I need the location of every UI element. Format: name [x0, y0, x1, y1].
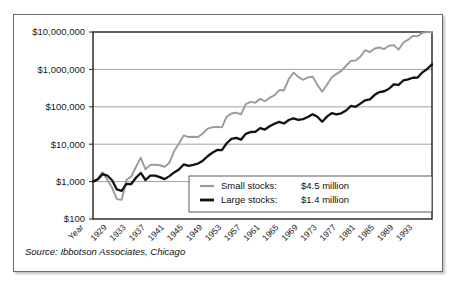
y-axis-tick-label: $100,000	[45, 101, 85, 112]
x-axis-tick-label: 1989	[375, 222, 396, 243]
y-axis-tick-label: $1,000,000	[37, 64, 85, 75]
source-note: Source: Ibbotson Associates, Chicago	[25, 246, 185, 257]
y-axis-tick-label: $10,000,000	[32, 26, 85, 37]
chart-figure-frame: $10,000,000$1,000,000$100,000$10,000$1,0…	[13, 14, 443, 272]
x-axis-tick-label: 1941	[146, 222, 167, 243]
x-axis-tick-label: 1985	[356, 222, 377, 243]
y-axis-labels: $10,000,000$1,000,000$100,000$10,000$1,0…	[32, 26, 85, 224]
x-axis-tick-label: 1949	[184, 222, 205, 243]
legend-value-small-stocks: $4.5 million	[301, 180, 349, 191]
x-axis-tick-label: 1965	[260, 222, 281, 243]
x-axis-tick-label: 1961	[241, 222, 262, 243]
x-axis-tick-label: 1977	[317, 222, 338, 243]
x-axis-tick-label: 1933	[107, 222, 128, 243]
x-axis-tick-label: 1929	[88, 222, 109, 243]
legend-label-small-stocks: Small stocks:	[221, 180, 277, 191]
x-axis-labels: Year192919331937194119451949195319571961…	[66, 222, 414, 243]
x-axis-tick-label: 1981	[337, 222, 358, 243]
legend-value-large-stocks: $1.4 million	[301, 194, 349, 205]
legend-label-large-stocks: Large stocks:	[221, 194, 278, 205]
x-axis-tick-label: 1969	[279, 222, 300, 243]
x-axis-tick-label: 1945	[165, 222, 186, 243]
x-axis-tick-label: 1953	[203, 222, 224, 243]
x-axis-tick-label: 1937	[126, 222, 147, 243]
chart-plot-wrapper: $10,000,000$1,000,000$100,000$10,000$1,0…	[14, 15, 444, 273]
y-axis-tick-label: $10,000	[51, 139, 85, 150]
chart-legend: Small stocks:$4.5 millionLarge stocks:$1…	[189, 176, 432, 212]
x-axis-tick-label: 1993	[394, 222, 415, 243]
x-axis-tick-label: 1957	[222, 222, 243, 243]
stock-growth-line-chart: $10,000,000$1,000,000$100,000$10,000$1,0…	[14, 15, 444, 273]
x-axis-title: Year	[66, 222, 85, 241]
y-axis-tick-label: $1,000	[56, 176, 85, 187]
x-axis-tick-label: 1973	[298, 222, 319, 243]
y-axis-tick-label: $100	[64, 213, 85, 224]
